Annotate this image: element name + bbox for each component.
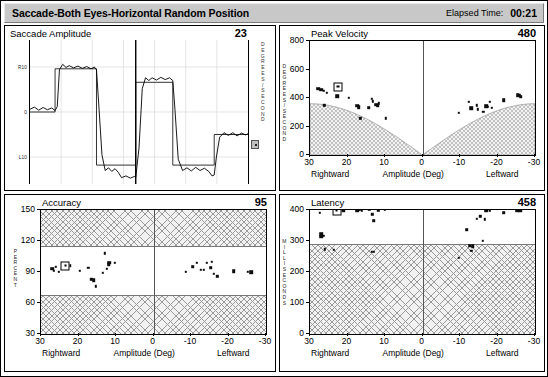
accuracy-data-point[interactable] [249, 270, 253, 274]
panel-value-latency: 458 [518, 196, 536, 208]
panel-accuracy[interactable]: Accuracy 95 PERCENT 3060901201503020100-… [4, 194, 276, 372]
peak-velocity-plot[interactable] [309, 40, 536, 156]
accuracy-data-point[interactable] [55, 266, 57, 268]
elapsed-time-group: Elapsed Time: 00:21 [446, 4, 537, 22]
peak_velocity-data-point[interactable] [323, 104, 325, 106]
peak_velocity-data-point[interactable] [519, 94, 521, 96]
peak_velocity-data-point[interactable] [367, 106, 371, 110]
latency-data-point[interactable] [481, 240, 483, 242]
latency-ytick-label-4: 400 [280, 204, 304, 214]
peak_velocity-data-point[interactable] [489, 101, 491, 103]
latency-data-point[interactable] [470, 250, 472, 252]
latency-data-point[interactable] [322, 235, 324, 237]
peak_velocity-data-point[interactable] [385, 117, 387, 119]
latency-data-point[interactable] [489, 209, 491, 211]
peak_velocity-xtick-label-6: -30 [528, 157, 540, 167]
accuracy-data-point[interactable] [216, 275, 218, 277]
accuracy-data-point[interactable] [58, 271, 60, 273]
accuracy-data-point[interactable] [232, 269, 236, 273]
peak_velocity-data-point[interactable] [490, 107, 492, 109]
latency-data-point[interactable] [368, 209, 370, 211]
latency-ytick-mark-1 [306, 302, 309, 303]
accuracy-data-point[interactable] [104, 252, 106, 254]
accuracy-data-point[interactable] [87, 267, 89, 269]
accuracy-data-point[interactable] [113, 261, 115, 263]
accuracy-data-point[interactable] [53, 270, 55, 272]
trace-cursor-handle[interactable] [251, 140, 259, 149]
accuracy-data-point[interactable] [101, 272, 103, 274]
accuracy-data-point[interactable] [203, 269, 205, 271]
accuracy-data-point[interactable] [196, 261, 198, 263]
accuracy-data-point[interactable] [95, 285, 97, 287]
peak_velocity-data-point[interactable] [468, 101, 470, 103]
accuracy-data-point[interactable] [212, 273, 214, 275]
latency-data-point[interactable] [373, 251, 375, 253]
accuracy-data-point[interactable] [191, 265, 195, 269]
latency-data-point[interactable] [457, 257, 459, 259]
panel-peak-velocity[interactable]: Peak Velocity 480 DEGREES/SECOND 0200400… [279, 25, 545, 191]
latency-zero-line [423, 210, 424, 334]
accuracy-xtick-label-5: -20 [221, 336, 233, 346]
accuracy-data-point[interactable] [92, 278, 96, 282]
peak_velocity-data-point[interactable] [469, 106, 473, 110]
panel-saccade-amplitude[interactable]: Saccade Amplitude 23 R100L10 DEGREES/SEC… [4, 25, 276, 191]
latency-data-point[interactable] [372, 219, 376, 223]
accuracy-data-point[interactable] [79, 270, 81, 272]
peak_velocity-selected-point-marker[interactable] [334, 82, 343, 91]
peak_velocity-data-point[interactable] [475, 104, 477, 106]
peak_velocity-data-point[interactable] [372, 100, 374, 102]
peak_velocity-data-point[interactable] [335, 94, 339, 98]
accuracy-plot[interactable] [40, 209, 267, 335]
latency-data-point[interactable] [475, 218, 477, 220]
accuracy-selected-point-marker[interactable] [61, 261, 70, 270]
latency-xtick-mark-0 [309, 333, 310, 336]
peak_velocity-xtick-label-5: -20 [490, 157, 502, 167]
latency-xtick-mark-4 [459, 333, 460, 336]
latency-data-point[interactable] [484, 218, 486, 220]
peak_velocity-data-point[interactable] [359, 117, 361, 119]
peak_velocity-xtick-mark-1 [347, 154, 348, 157]
panel-latency[interactable]: Latency 458 MILLISECONDS 010020030040030… [279, 194, 545, 372]
latency-xtick-label-4: -10 [453, 336, 465, 346]
latency-data-point[interactable] [371, 213, 373, 215]
accuracy-data-point[interactable] [206, 261, 208, 263]
latency-data-point[interactable] [479, 215, 481, 217]
latency-data-point[interactable] [518, 209, 522, 212]
peak_velocity-data-point[interactable] [357, 105, 361, 109]
latency-data-point[interactable] [333, 248, 335, 250]
accuracy-xtick-label-1: 20 [73, 336, 82, 346]
accuracy-ytick-mark-3 [37, 240, 40, 241]
latency-data-point[interactable] [384, 209, 386, 211]
accuracy-data-point[interactable] [211, 260, 213, 262]
amplitude-y-axis-labels: R100L10 [7, 40, 29, 184]
accuracy-data-point[interactable] [185, 271, 187, 273]
latency-data-point[interactable] [502, 211, 506, 215]
peak_velocity-data-point[interactable] [378, 102, 380, 104]
peak_velocity-data-point[interactable] [482, 111, 484, 113]
latency-ytick-label-0: 0 [280, 328, 304, 338]
latency-data-point[interactable] [324, 248, 326, 250]
peak_velocity-data-point[interactable] [502, 98, 506, 102]
latency-data-point[interactable] [361, 209, 363, 211]
peak_velocity-data-point[interactable] [348, 97, 350, 99]
accuracy-x-axis-title: Amplitude (Deg) [114, 348, 175, 358]
accuracy-data-point[interactable] [209, 266, 213, 270]
latency-data-point[interactable] [319, 212, 321, 214]
amplitude-trace-plot[interactable] [29, 40, 249, 184]
latency-data-point[interactable] [471, 244, 475, 248]
accuracy-xtick-mark-0 [40, 333, 41, 336]
latency-data-point[interactable] [377, 209, 379, 211]
peak_velocity-data-point[interactable] [487, 106, 489, 108]
latency-data-point[interactable] [341, 209, 345, 212]
latency-data-point[interactable] [484, 209, 488, 212]
accuracy-data-point[interactable] [107, 261, 111, 265]
peak_velocity-data-point[interactable] [325, 92, 327, 94]
latency-selected-point-marker[interactable] [333, 209, 342, 215]
latency-data-point[interactable] [465, 228, 469, 232]
peak_velocity-data-point[interactable] [477, 108, 479, 110]
latency-x-axis-title: Amplitude (Deg) [383, 348, 444, 358]
accuracy-xtick-label-2: 10 [110, 336, 119, 346]
latency-plot[interactable] [309, 209, 536, 335]
accuracy-data-point[interactable] [106, 268, 108, 270]
peak_velocity-data-point[interactable] [457, 111, 459, 113]
